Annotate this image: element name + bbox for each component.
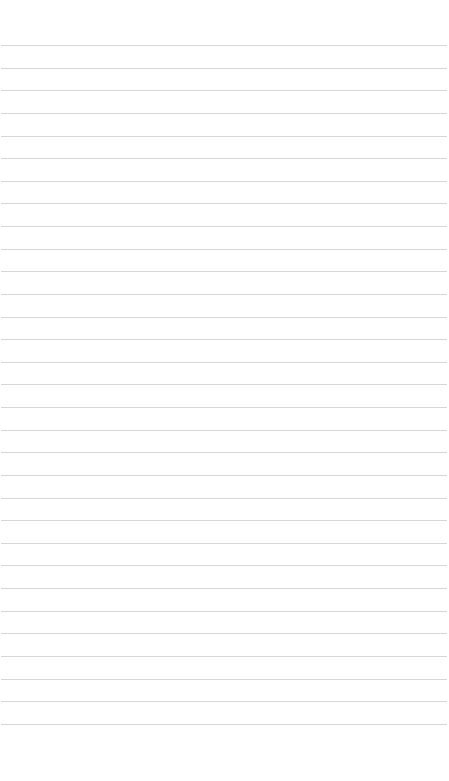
ruled-line bbox=[1, 475, 447, 476]
ruled-line bbox=[1, 588, 447, 589]
ruled-line bbox=[1, 520, 447, 521]
ruled-line bbox=[1, 701, 447, 702]
ruled-line bbox=[1, 384, 447, 385]
ruled-line bbox=[1, 724, 447, 725]
ruled-line bbox=[1, 294, 447, 295]
ruled-line bbox=[1, 543, 447, 544]
ruled-line bbox=[1, 679, 447, 680]
ruled-line bbox=[1, 430, 447, 431]
ruled-line bbox=[1, 113, 447, 114]
ruled-paper-page bbox=[0, 0, 449, 781]
ruled-line bbox=[1, 498, 447, 499]
ruled-line bbox=[1, 339, 447, 340]
ruled-line bbox=[1, 407, 447, 408]
ruled-line bbox=[1, 45, 447, 46]
ruled-line bbox=[1, 271, 447, 272]
ruled-line bbox=[1, 136, 447, 137]
ruled-line bbox=[1, 68, 447, 69]
ruled-line bbox=[1, 452, 447, 453]
ruled-line bbox=[1, 633, 447, 634]
ruled-line bbox=[1, 158, 447, 159]
ruled-line bbox=[1, 317, 447, 318]
ruled-line bbox=[1, 249, 447, 250]
ruled-line bbox=[1, 656, 447, 657]
ruled-line bbox=[1, 611, 447, 612]
ruled-line bbox=[1, 362, 447, 363]
ruled-line bbox=[1, 181, 447, 182]
ruled-line bbox=[1, 90, 447, 91]
ruled-line bbox=[1, 203, 447, 204]
ruled-line bbox=[1, 565, 447, 566]
ruled-line bbox=[1, 226, 447, 227]
